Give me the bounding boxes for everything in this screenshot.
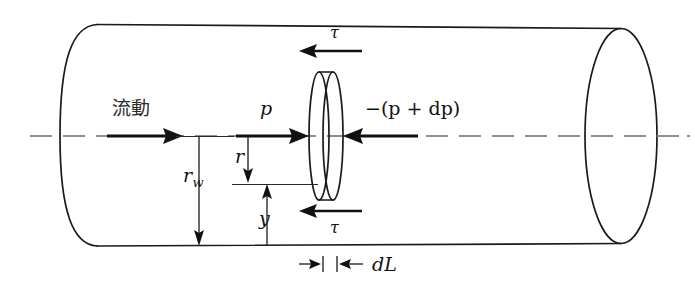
shear-bottom-label: τ bbox=[330, 218, 340, 237]
flow-direction-arrow bbox=[107, 128, 183, 144]
pressure-upstream-head bbox=[289, 128, 309, 144]
diagram-canvas: 流動 p −(p + dp) τ τ bbox=[0, 0, 695, 281]
pipe-bottom-wall bbox=[97, 244, 621, 247]
shear-arrow-top bbox=[299, 44, 362, 58]
radius-label: r bbox=[235, 145, 246, 167]
pipe-top-wall bbox=[97, 25, 621, 29]
wall-radius-subscript: w bbox=[193, 175, 204, 190]
shear-top-label: τ bbox=[330, 23, 340, 42]
pipe-flow-diagram: 流動 p −(p + dp) τ τ bbox=[0, 0, 695, 281]
dL-dimension bbox=[299, 256, 363, 272]
shear-arrow-bottom bbox=[299, 204, 362, 218]
pressure-arrow-downstream bbox=[343, 128, 418, 144]
wall-radius-label: rw bbox=[183, 164, 204, 190]
radius-dimension bbox=[232, 137, 318, 185]
pressure-upstream-label: p bbox=[260, 97, 272, 119]
wall-radius-dimension bbox=[176, 137, 234, 247]
flow-label: 流動 bbox=[112, 97, 150, 119]
dL-label: dL bbox=[372, 253, 397, 275]
wall-distance-label: y bbox=[258, 207, 270, 229]
pressure-downstream-label: −(p + dp) bbox=[365, 97, 460, 119]
pressure-arrow-upstream bbox=[236, 128, 309, 144]
pressure-downstream-head bbox=[343, 128, 363, 144]
